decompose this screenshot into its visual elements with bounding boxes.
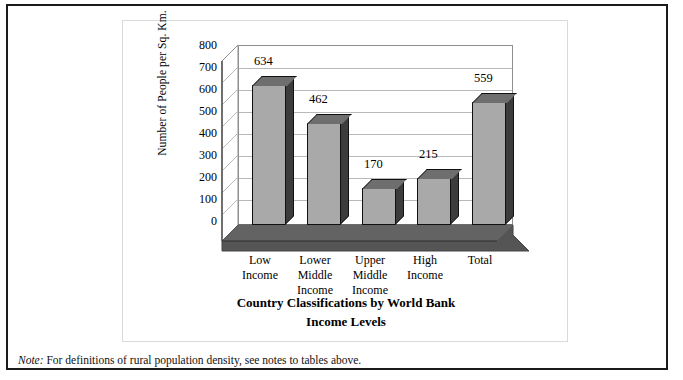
x-label-high-income-line2: Income [395,268,455,283]
y-tick-400: 400 [183,128,217,138]
bar-group-total[interactable]: 559 [472,102,506,225]
x-label-high-income-line1: High [395,253,455,268]
x-label-upper-middle-income-line1: Upper [340,253,400,268]
bar-side-low-income [285,76,294,225]
y-tick-500: 500 [183,106,217,116]
bar-front-high-income[interactable] [417,178,451,225]
y-tick-0: 0 [183,216,217,226]
bar-value-lower-middle-income: 462 [309,92,328,107]
bar-group-low-income[interactable]: 634 [252,85,286,225]
x-label-low-income-line1: Low [230,253,290,268]
chart-3d-scene: 634 462 170 [222,45,518,251]
bar-side-total [505,93,514,225]
x-label-low-income-line2: Income [230,268,290,283]
x-label-lower-middle-income-line1: Lower [285,253,345,268]
y-tick-300: 300 [183,150,217,160]
chart-container: Number of People per Sq. Km. 800 700 600… [122,20,568,342]
bar-group-upper-middle-income[interactable]: 170 [362,188,396,225]
bar-value-high-income: 215 [419,147,438,162]
plot-area: Number of People per Sq. Km. 800 700 600… [123,21,569,271]
bar-front-total[interactable] [472,102,506,225]
x-label-low-income: Low Income [230,253,290,283]
x-label-upper-middle-income-line2: Middle [340,268,400,283]
figure-frame: Number of People per Sq. Km. 800 700 600… [6,4,668,370]
x-label-lower-middle-income-line2: Middle [285,268,345,283]
y-tick-600: 600 [183,84,217,94]
footnote: Note: For definitions of rural populatio… [18,354,361,366]
x-label-upper-middle-income: Upper Middle Income [340,253,400,298]
footnote-label: Note: [18,354,44,366]
y-tick-100: 100 [183,194,217,204]
bar-group-high-income[interactable]: 215 [417,178,451,225]
chart-title-line1: Country Classifications by World Bank [123,293,569,312]
bar-value-upper-middle-income: 170 [364,157,383,172]
y-tick-700: 700 [183,62,217,72]
chart-title-line2: Income Levels [123,312,569,331]
bar-front-low-income[interactable] [252,85,286,225]
y-axis-tick-labels: 800 700 600 500 400 300 200 100 0 [183,21,217,271]
y-tick-800: 800 [183,40,217,50]
bar-front-lower-middle-income[interactable] [307,123,341,225]
y-tick-200: 200 [183,172,217,182]
x-label-lower-middle-income: Lower Middle Income [285,253,345,298]
y-axis-title: Number of People per Sq. Km. [156,0,168,178]
x-label-high-income: High Income [395,253,455,283]
bar-group-lower-middle-income[interactable]: 462 [307,123,341,225]
bar-value-total: 559 [474,71,493,86]
bar-value-low-income: 634 [254,54,273,69]
bars-layer: 634 462 170 [238,45,513,251]
footnote-text: For definitions of rural population dens… [44,354,362,366]
chart-title: Country Classifications by World Bank In… [123,293,569,331]
x-label-total: Total [450,253,510,268]
bar-side-lower-middle-income [340,114,349,225]
x-label-total-line1: Total [450,253,510,268]
bar-front-upper-middle-income[interactable] [362,188,396,225]
